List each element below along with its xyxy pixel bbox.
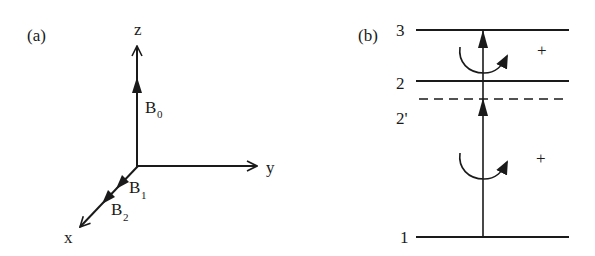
svg-text:1: 1	[141, 189, 147, 201]
x-axis-label: x	[64, 228, 73, 247]
z-axis-label: z	[134, 20, 142, 39]
polarization-sign-upper: +	[537, 41, 547, 60]
panel-b-label: (b)	[358, 26, 378, 45]
svg-text:B: B	[145, 98, 156, 117]
panel-a: (a) z B 0 y x B 1 B 2	[27, 20, 275, 247]
svg-text:B: B	[129, 178, 140, 197]
panel-b: (b) 3 2 2' 1 + +	[358, 21, 569, 247]
polarization-sign-lower: +	[536, 149, 546, 168]
b1-label: B 1	[129, 178, 147, 201]
b0-arrow-icon	[132, 77, 142, 93]
panel-a-label: (a)	[27, 26, 46, 45]
b2-label: B 2	[111, 200, 129, 223]
svg-text:0: 0	[157, 108, 163, 120]
svg-text:2: 2	[123, 211, 129, 223]
level-1-label: 1	[400, 228, 409, 247]
y-axis-label: y	[266, 158, 275, 177]
transition-arrow-icon-upper	[478, 30, 488, 48]
svg-text:B: B	[111, 200, 122, 219]
figure: (a) z B 0 y x B 1 B 2 (b)	[0, 0, 595, 256]
level-3-label: 3	[396, 21, 405, 40]
b0-label: B 0	[145, 98, 163, 120]
level-2-label: 2	[396, 74, 405, 93]
level-2-prime-label: 2'	[396, 109, 408, 128]
transition-arrow-icon-lower	[478, 98, 488, 116]
